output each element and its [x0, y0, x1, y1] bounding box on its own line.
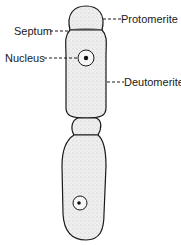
lower-protomerite	[72, 118, 101, 135]
upper-deutomerite	[66, 30, 107, 118]
upper-protomerite	[69, 6, 103, 30]
septum-label: Septum	[14, 25, 52, 37]
gregarine-diagram: Protomerite Septum Nucleus Deutomerite	[0, 0, 181, 245]
nucleus-label: Nucleus	[5, 52, 45, 64]
protomerite-label: Protomerite	[121, 13, 178, 25]
lower-deutomerite	[62, 135, 106, 240]
upper-nucleolus	[84, 56, 88, 60]
deutomerite-label: Deutomerite	[124, 76, 181, 88]
lower-nucleolus	[77, 201, 81, 205]
